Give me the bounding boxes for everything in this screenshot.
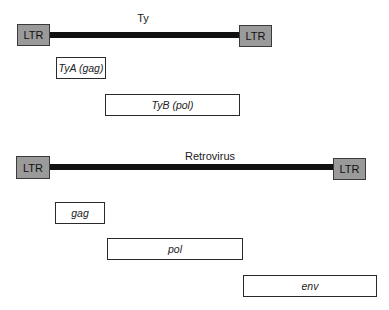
ty-gene-tyb-pol: TyB (pol) — [105, 94, 240, 116]
retrovirus-title: Retrovirus — [160, 150, 240, 162]
retrovirus-ltr-left: LTR — [16, 156, 50, 179]
ty-gene-tya-gag: TyA (gag) — [56, 57, 106, 79]
ty-ltr-left: LTR — [17, 24, 50, 46]
retrovirus-genome-bar — [49, 164, 334, 170]
retrovirus-ltr-right: LTR — [333, 158, 366, 180]
retrovirus-gene-pol: pol — [107, 238, 243, 260]
retrovirus-gene-gag: gag — [55, 202, 105, 224]
ty-ltr-right: LTR — [239, 25, 272, 47]
ty-genome-bar — [49, 32, 240, 38]
retrovirus-gene-env: env — [243, 275, 377, 297]
ty-title: Ty — [118, 12, 168, 24]
